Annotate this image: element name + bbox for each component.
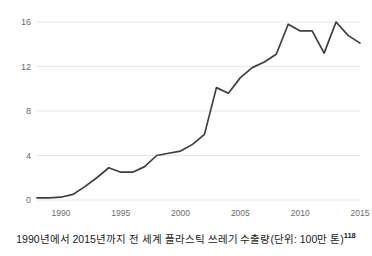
- y-tick-label-0: 0: [9, 195, 31, 205]
- x-tick-label-2015: 2015: [340, 208, 372, 218]
- y-tick-label-4: 4: [9, 151, 31, 161]
- x-tick-label-1995: 1995: [101, 208, 141, 218]
- y-tick-label-16: 16: [9, 17, 31, 27]
- x-tick-label-2005: 2005: [220, 208, 260, 218]
- y-tick-label-8: 8: [9, 106, 31, 116]
- chart-figure: 0481216 199019952000200520102015 1990년에서…: [0, 0, 372, 256]
- x-tick-label-2000: 2000: [161, 208, 201, 218]
- plot-area: 0481216 199019952000200520102015: [0, 0, 372, 226]
- caption-footnote-marker: 118: [344, 231, 356, 240]
- chart-caption: 1990년에서 2015년까지 전 세계 플라스틱 쓰레기 수출량(단위: 10…: [0, 228, 372, 247]
- x-tick-label-1990: 1990: [41, 208, 81, 218]
- y-tick-label-12: 12: [9, 62, 31, 72]
- data-series-group: [37, 22, 360, 198]
- gridlines: [37, 22, 360, 200]
- caption-text: 1990년에서 2015년까지 전 세계 플라스틱 쓰레기 수출량(단위: 10…: [16, 233, 343, 245]
- line-chart-svg: [0, 0, 372, 226]
- x-tick-label-2010: 2010: [280, 208, 320, 218]
- data-line-series-0: [37, 22, 360, 198]
